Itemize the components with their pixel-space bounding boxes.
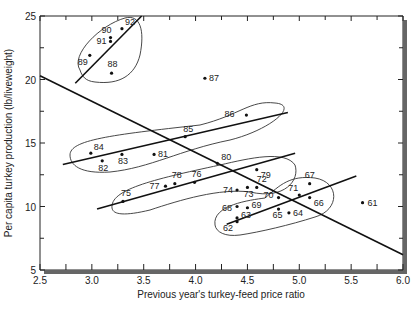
y-tick-label: 10 [25,202,37,213]
data-point [235,220,238,223]
data-points: 9290918988878685848382818079787776757473… [78,17,378,233]
point-label: 91 [97,36,107,46]
point-label: 80 [221,152,231,162]
x-tick-label: 5.5 [344,275,358,286]
x-tick-label: 5.0 [292,275,306,286]
x-axis-label: Previous year's turkey-feed price ratio [137,289,305,300]
ellipse-75-80 [112,156,296,213]
y-tick-label: 20 [25,75,37,86]
regression-lines [40,16,403,255]
point-label: 72 [257,174,267,184]
point-label: 63 [241,210,251,220]
point-label: 61 [368,198,378,208]
data-point [121,200,124,203]
point-label: 90 [102,25,112,35]
point-label: 69 [251,200,261,210]
point-label: 62 [223,223,233,233]
data-point [88,54,91,57]
point-label: 81 [158,149,168,159]
data-point [109,36,112,39]
x-tick-label: 4.0 [189,275,203,286]
point-label: 86 [224,109,234,119]
point-label: 64 [293,208,303,218]
data-point [235,216,238,219]
data-point [255,186,258,189]
point-label: 84 [94,142,104,152]
point-label: 82 [98,163,108,173]
point-label: 88 [108,59,118,69]
point-label: 65 [273,210,283,220]
group-ellipses [70,17,334,235]
data-point [193,181,196,184]
data-point [216,162,219,165]
data-point [184,135,187,138]
x-tick-label: 3.5 [137,275,151,286]
data-point [89,152,92,155]
y-tick-label: 5 [30,265,36,276]
y-axis-label: Per capita turkey production (lb/livewei… [3,49,14,237]
data-point [287,211,290,214]
point-label: 76 [192,169,202,179]
data-point [245,113,248,116]
scatter-chart: 2.53.03.54.04.55.05.56.0 510152025 92909… [0,0,418,310]
point-label: 78 [172,170,182,180]
data-point [235,205,238,208]
data-point [173,182,176,185]
x-tick-label: 2.5 [33,275,47,286]
fit-line-overall-fit [40,76,403,255]
data-point [110,72,113,75]
data-point [109,40,112,43]
data-point [120,27,123,30]
point-label: 87 [209,73,219,83]
data-point [246,206,249,209]
data-point [361,201,364,204]
data-point [298,193,301,196]
point-label: 89 [78,57,88,67]
data-point [235,188,238,191]
x-tick-label: 3.0 [85,275,99,286]
point-label: 83 [118,156,128,166]
data-point [277,196,280,199]
fit-line-group-81-86-fit [63,113,288,165]
x-tick-label: 6.0 [396,275,410,286]
data-point [308,196,311,199]
point-label: 67 [305,170,315,180]
y-tick-label: 25 [25,11,37,22]
x-tick-label: 4.5 [240,275,254,286]
data-point [203,77,206,80]
point-label: 75 [121,188,131,198]
data-point [164,185,167,188]
point-label: 70 [264,190,274,200]
point-label: 74 [223,185,233,195]
point-label: 71 [288,183,298,193]
point-label: 92 [125,17,135,27]
data-point [152,153,155,156]
point-label: 77 [149,181,159,191]
point-label: 73 [243,189,253,199]
point-label: 85 [183,124,193,134]
point-label: 66 [314,198,324,208]
data-point [255,168,258,171]
data-point [308,182,311,185]
y-tick-label: 15 [25,138,37,149]
point-label: 68 [222,203,232,213]
